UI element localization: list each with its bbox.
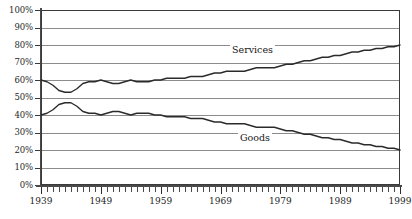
x-axis-tick-minor bbox=[185, 187, 186, 192]
x-axis-tick-minor bbox=[77, 187, 78, 192]
x-axis-tick-label: 1939 bbox=[30, 196, 53, 207]
x-axis-tick-minor bbox=[197, 187, 198, 192]
x-axis-tick-major bbox=[41, 187, 42, 194]
x-axis-tick-minor bbox=[47, 187, 48, 192]
x-axis-tick-minor bbox=[238, 187, 239, 192]
x-axis-tick-minor bbox=[119, 187, 120, 192]
x-axis-tick-minor bbox=[155, 187, 156, 192]
x-axis-tick-minor bbox=[262, 187, 263, 192]
x-axis-tick-minor bbox=[143, 187, 144, 192]
x-axis-tick-minor bbox=[394, 187, 395, 192]
series-label-services: Services bbox=[230, 44, 275, 55]
x-axis-tick-minor bbox=[137, 187, 138, 192]
x-axis-tick-minor bbox=[292, 187, 293, 192]
x-axis-tick-minor bbox=[334, 187, 335, 192]
x-axis-tick-major bbox=[101, 187, 102, 194]
x-axis-tick-minor bbox=[286, 187, 287, 192]
x-axis-tick-label: 1989 bbox=[329, 196, 352, 207]
x-axis-tick-minor bbox=[149, 187, 150, 192]
x-axis-tick-minor bbox=[203, 187, 204, 192]
x-axis-tick-minor bbox=[131, 187, 132, 192]
x-axis-tick-minor bbox=[71, 187, 72, 192]
x-axis-tick-minor bbox=[59, 187, 60, 192]
x-axis-tick-minor bbox=[382, 187, 383, 192]
x-axis-tick-minor bbox=[322, 187, 323, 192]
x-axis-tick-label: 1959 bbox=[149, 196, 172, 207]
x-axis-tick-major bbox=[221, 187, 222, 194]
x-axis-tick-minor bbox=[388, 187, 389, 192]
x-axis-tick-minor bbox=[310, 187, 311, 192]
x-axis-tick-minor bbox=[89, 187, 90, 192]
x-axis-tick-label: 1969 bbox=[209, 196, 232, 207]
x-axis-tick-minor bbox=[328, 187, 329, 192]
x-axis-tick-label: 1949 bbox=[89, 196, 112, 207]
x-axis-tick-minor bbox=[167, 187, 168, 192]
x-axis-tick-minor bbox=[376, 187, 377, 192]
x-axis-tick-minor bbox=[274, 187, 275, 192]
x-axis-tick-minor bbox=[250, 187, 251, 192]
series-label-goods: Goods bbox=[238, 132, 272, 143]
x-axis: 1939194919591969197919891999 bbox=[0, 0, 412, 219]
x-axis-tick-minor bbox=[179, 187, 180, 192]
x-axis-tick-minor bbox=[173, 187, 174, 192]
x-axis-tick-minor bbox=[316, 187, 317, 192]
x-axis-tick-minor bbox=[370, 187, 371, 192]
x-axis-tick-minor bbox=[125, 187, 126, 192]
x-axis-tick-minor bbox=[209, 187, 210, 192]
x-axis-tick-minor bbox=[268, 187, 269, 192]
x-axis-tick-major bbox=[280, 187, 281, 194]
x-axis-tick-minor bbox=[244, 187, 245, 192]
x-axis-tick-minor bbox=[304, 187, 305, 192]
x-axis-tick-minor bbox=[346, 187, 347, 192]
chart-figure: 100%90%80%70%60%50%40%30%20%10%0% 193919… bbox=[0, 0, 412, 219]
x-axis-tick-minor bbox=[226, 187, 227, 192]
x-axis-tick-minor bbox=[107, 187, 108, 192]
x-axis-tick-label: 1979 bbox=[269, 196, 292, 207]
x-axis-tick-minor bbox=[53, 187, 54, 192]
x-axis-tick-minor bbox=[191, 187, 192, 192]
x-axis-tick-major bbox=[161, 187, 162, 194]
x-axis-tick-minor bbox=[83, 187, 84, 192]
x-axis-tick-minor bbox=[256, 187, 257, 192]
x-axis-tick-minor bbox=[65, 187, 66, 192]
x-axis-tick-label: 1999 bbox=[389, 196, 412, 207]
x-axis-tick-minor bbox=[95, 187, 96, 192]
x-axis-tick-minor bbox=[215, 187, 216, 192]
x-axis-tick-minor bbox=[113, 187, 114, 192]
x-axis-tick-minor bbox=[232, 187, 233, 192]
x-axis-tick-major bbox=[340, 187, 341, 194]
x-axis-tick-minor bbox=[358, 187, 359, 192]
x-axis-tick-minor bbox=[364, 187, 365, 192]
x-axis-tick-major bbox=[400, 187, 401, 194]
x-axis-tick-minor bbox=[352, 187, 353, 192]
x-axis-tick-minor bbox=[298, 187, 299, 192]
